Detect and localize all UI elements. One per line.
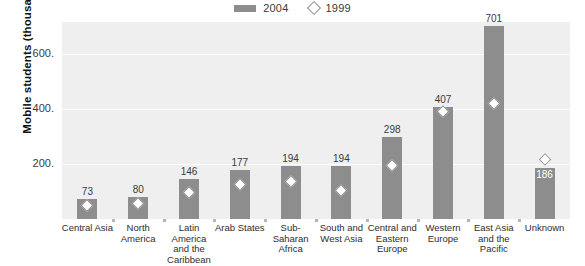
bar-value-label: 146	[181, 166, 198, 177]
x-axis-tick	[467, 219, 470, 222]
x-tick-label-line: Western	[425, 222, 460, 233]
x-axis-tick	[417, 219, 420, 222]
legend-label-1999: 1999	[326, 2, 351, 14]
x-tick-label-line: North	[127, 222, 150, 233]
bar-swatch-icon	[234, 5, 256, 12]
bar-value-label: 177	[231, 157, 248, 168]
x-tick-label-line: Latin	[179, 222, 200, 233]
x-tick-label-line: and the	[478, 233, 510, 244]
bar-2004[interactable]	[484, 26, 504, 219]
bar-group[interactable]: 80	[113, 22, 164, 219]
x-axis-tick	[112, 219, 115, 222]
x-tick-label-line: Unknown	[525, 222, 565, 233]
x-tick-label-line: Europe	[428, 233, 459, 244]
bar-chart: 2004 1999 Mobile students (thousands) 20…	[0, 0, 585, 266]
legend-item-2004: 2004	[234, 2, 288, 14]
bar-value-label: 194	[282, 153, 299, 164]
x-tick-label-line: Caribbean	[167, 254, 211, 265]
x-tick-label-line: South and	[320, 222, 363, 233]
x-tick-label-line: Central Asia	[62, 222, 113, 233]
marker-1999[interactable]	[538, 153, 551, 166]
x-tick-label-line: East Asia	[474, 222, 514, 233]
x-tick-label: Unknown	[513, 223, 576, 234]
y-tick-label: 200.	[12, 157, 54, 169]
bar-group[interactable]: 194	[316, 22, 367, 219]
x-tick-label-line: Arab States	[215, 222, 265, 233]
bar-value-label: 80	[133, 184, 144, 195]
x-axis: Central AsiaNorthAmericaLatinAmericaand …	[62, 219, 570, 266]
bar-2004[interactable]	[179, 179, 199, 219]
bar-2004[interactable]	[382, 137, 402, 219]
x-tick-label-line: Europe	[377, 243, 408, 254]
bar-value-label: 194	[333, 153, 350, 164]
bar-group[interactable]: 701	[468, 22, 519, 219]
y-tick-label: 400.	[12, 102, 54, 114]
x-axis-tick	[518, 219, 521, 222]
x-axis-tick	[315, 219, 318, 222]
x-tick-label-line: America	[121, 233, 156, 244]
y-tick-label: 600.	[12, 47, 54, 59]
legend-item-1999: 1999	[309, 2, 351, 14]
bar-value-label: 186	[536, 169, 553, 180]
x-tick-label-line: West Asia	[320, 233, 362, 244]
bar-2004[interactable]	[281, 166, 301, 219]
plot-area: 7380146177194194298407701186	[62, 22, 570, 219]
legend-label-2004: 2004	[263, 2, 288, 14]
bar-group[interactable]: 186	[519, 22, 570, 219]
x-tick-label-line: Eastern	[376, 233, 409, 244]
bar-group[interactable]: 73	[62, 22, 113, 219]
x-tick-label-line: Saharan	[273, 233, 309, 244]
x-tick-label-line: Sub-	[281, 222, 301, 233]
x-tick-label-line: America	[172, 233, 207, 244]
bar-group[interactable]: 146	[164, 22, 215, 219]
bar-value-label: 73	[82, 186, 93, 197]
bar-group[interactable]: 194	[265, 22, 316, 219]
bar-2004[interactable]	[433, 107, 453, 219]
bar-value-label: 407	[435, 94, 452, 105]
bar-group[interactable]: 407	[418, 22, 469, 219]
x-axis-tick	[163, 219, 166, 222]
y-axis-title: Mobile students (thousands)	[21, 0, 33, 149]
x-tick-label-line: Africa	[278, 243, 302, 254]
bar-group[interactable]: 177	[214, 22, 265, 219]
bar-group[interactable]: 298	[367, 22, 418, 219]
x-tick-label-line: Pacific	[480, 243, 508, 254]
bar-value-label: 701	[485, 13, 502, 24]
diamond-marker-icon	[306, 1, 320, 15]
x-axis-tick	[264, 219, 267, 222]
x-tick-label-line: Central and	[368, 222, 417, 233]
bar-series: 7380146177194194298407701186	[62, 22, 570, 219]
bar-value-label: 298	[384, 124, 401, 135]
x-tick-label-line: and the	[173, 243, 205, 254]
